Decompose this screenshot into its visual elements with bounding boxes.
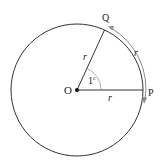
label-o: O [64,84,72,96]
diagram-canvas: O P Q r r r 1c [0,0,168,167]
label-q: Q [102,12,110,23]
radian-diagram: O P Q r r r 1c [0,0,168,167]
label-radius-oq: r [83,51,87,62]
angle-unit: c [93,75,96,81]
label-p: P [148,87,154,98]
label-radius-op: r [108,92,112,103]
label-arc: r [134,47,138,58]
label-angle: 1c [88,75,96,86]
arrowhead-p-icon [142,97,147,104]
arc-length-arrow [111,28,146,100]
center-dot [75,88,79,92]
